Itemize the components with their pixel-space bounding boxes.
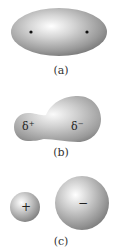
caption-a: (a) [0,64,122,77]
panel-a-ellipsoid [11,8,107,56]
delta-symbol: δ [22,120,29,133]
nucleus-dot-right [85,30,88,33]
nucleus-dot-left [29,30,32,33]
figure-canvas [0,0,122,251]
caption-b: (b) [0,146,122,159]
panel-b-dumbbell [14,96,101,142]
delta-symbol: δ [71,120,78,133]
partial-negative-charge: δ− [71,121,84,132]
electron-cloud-ellipsoid [11,8,107,56]
minus-sign: − [78,120,84,128]
electron-cloud-dumbbell [14,96,101,142]
caption-c: (c) [0,235,122,248]
plus-sign: + [29,120,35,128]
cation-charge: + [21,201,31,213]
anion-charge: − [78,197,88,209]
partial-positive-charge: δ+ [22,121,35,132]
